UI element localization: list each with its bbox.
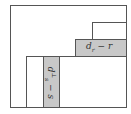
- lower-rectangle: [26, 56, 127, 108]
- top-right-step-rectangle: [92, 22, 127, 40]
- vertical-bar-label: d⊥s − s: [44, 63, 58, 103]
- horizontal-bar-label: dr − r: [86, 41, 112, 53]
